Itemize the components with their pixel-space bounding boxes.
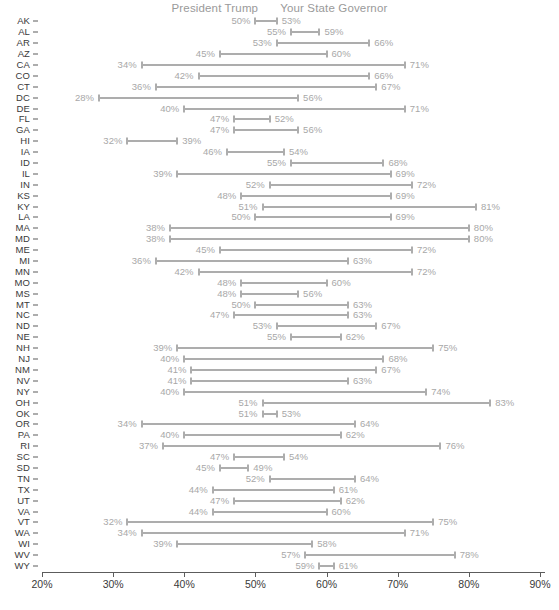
marker-governor: [390, 192, 392, 199]
value-label-trump: 38%: [146, 224, 165, 234]
value-label-trump: 48%: [217, 191, 236, 201]
dumbbell-connector: [234, 129, 298, 131]
y-tick-mark: [33, 326, 38, 327]
state-label-md: MD: [0, 235, 30, 245]
marker-trump: [155, 83, 157, 90]
value-label-trump: 53%: [253, 38, 272, 48]
dumbbell-connector: [177, 173, 390, 175]
state-label-oh: OH: [0, 398, 30, 408]
value-label-trump: 44%: [189, 485, 208, 495]
value-label-trump: 48%: [217, 278, 236, 288]
chart-row: SC47%54%: [0, 452, 559, 463]
dumbbell-connector: [213, 511, 327, 513]
marker-governor: [425, 388, 427, 395]
x-tick-label: 60%: [316, 578, 337, 590]
x-tick-label: 70%: [387, 578, 408, 590]
marker-governor: [354, 475, 356, 482]
value-label-governor: 67%: [381, 322, 400, 332]
marker-governor: [276, 18, 278, 25]
dumbbell-connector: [184, 434, 341, 436]
y-tick-mark: [33, 54, 38, 55]
y-tick-mark: [33, 141, 38, 142]
dumbbell-connector: [170, 227, 469, 229]
state-label-or: OR: [0, 420, 30, 430]
value-label-trump: 50%: [231, 213, 250, 223]
value-label-governor: 63%: [353, 256, 372, 266]
chart-row: AZ45%60%: [0, 49, 559, 60]
marker-trump: [318, 562, 320, 569]
chart-row: NY40%74%: [0, 386, 559, 397]
marker-governor: [347, 377, 349, 384]
marker-trump: [141, 530, 143, 537]
chart-row: NM41%67%: [0, 365, 559, 376]
dumbbell-connector: [184, 391, 426, 393]
chart-row: VA44%60%: [0, 506, 559, 517]
dumbbell-connector: [184, 358, 383, 360]
marker-governor: [297, 290, 299, 297]
value-label-governor: 67%: [381, 82, 400, 92]
dumbbell-connector: [241, 282, 326, 284]
state-label-ia: IA: [0, 147, 30, 157]
marker-trump: [233, 312, 235, 319]
x-tick-mark: [184, 573, 185, 577]
y-tick-mark: [33, 511, 38, 512]
chart-row: PA40%62%: [0, 430, 559, 441]
value-label-trump: 52%: [246, 180, 265, 190]
value-label-governor: 71%: [410, 104, 429, 114]
y-tick-mark: [33, 21, 38, 22]
marker-governor: [468, 225, 470, 232]
value-label-governor: 58%: [317, 539, 336, 549]
dumbbell-connector: [142, 532, 405, 534]
marker-trump: [290, 334, 292, 341]
chart-row: MT50%63%: [0, 299, 559, 310]
value-label-trump: 47%: [210, 496, 229, 506]
x-tick-label: 80%: [458, 578, 479, 590]
dumbbell-connector: [305, 554, 454, 556]
value-label-governor: 56%: [303, 126, 322, 136]
value-label-trump: 39%: [153, 539, 172, 549]
chart-row: WA34%71%: [0, 528, 559, 539]
marker-governor: [390, 214, 392, 221]
value-label-governor: 66%: [374, 71, 393, 81]
state-label-mo: MO: [0, 278, 30, 288]
y-tick-mark: [33, 250, 38, 251]
x-tick-label: 40%: [174, 578, 195, 590]
dumbbell-connector: [170, 238, 469, 240]
marker-governor: [454, 552, 456, 559]
y-tick-mark: [33, 65, 38, 66]
row-list: AK50%53%AL55%59%AR53%66%AZ45%60%CA34%71%…: [0, 16, 559, 572]
value-label-governor: 60%: [332, 278, 351, 288]
dumbbell-connector: [156, 86, 377, 88]
state-label-wi: WI: [0, 539, 30, 549]
chart-row: CO42%66%: [0, 70, 559, 81]
chart-row: AL55%59%: [0, 27, 559, 38]
value-label-governor: 59%: [324, 28, 343, 38]
y-tick-mark: [33, 446, 38, 447]
y-tick-mark: [33, 337, 38, 338]
chart-row: WV57%78%: [0, 550, 559, 561]
marker-trump: [226, 149, 228, 156]
value-label-governor: 60%: [332, 507, 351, 517]
chart-row: CA34%71%: [0, 60, 559, 71]
y-tick-mark: [33, 348, 38, 349]
dumbbell-connector: [234, 456, 284, 458]
state-label-va: VA: [0, 507, 30, 517]
marker-governor: [276, 410, 278, 417]
y-tick-mark: [33, 369, 38, 370]
value-label-trump: 59%: [295, 561, 314, 571]
dumbbell-connector: [277, 325, 377, 327]
value-label-trump: 40%: [160, 387, 179, 397]
marker-trump: [219, 247, 221, 254]
dumbbell-connector: [241, 293, 298, 295]
marker-governor: [382, 160, 384, 167]
state-label-in: IN: [0, 180, 30, 190]
state-label-ks: KS: [0, 191, 30, 201]
dumbbell-connector: [156, 260, 348, 262]
state-label-ok: OK: [0, 409, 30, 419]
marker-trump: [254, 214, 256, 221]
dumbbell-connector: [199, 271, 412, 273]
marker-governor: [382, 356, 384, 363]
marker-governor: [318, 29, 320, 36]
value-label-trump: 48%: [217, 289, 236, 299]
dumbbell-chart: President Trump Your State Governor AK50…: [0, 0, 559, 610]
